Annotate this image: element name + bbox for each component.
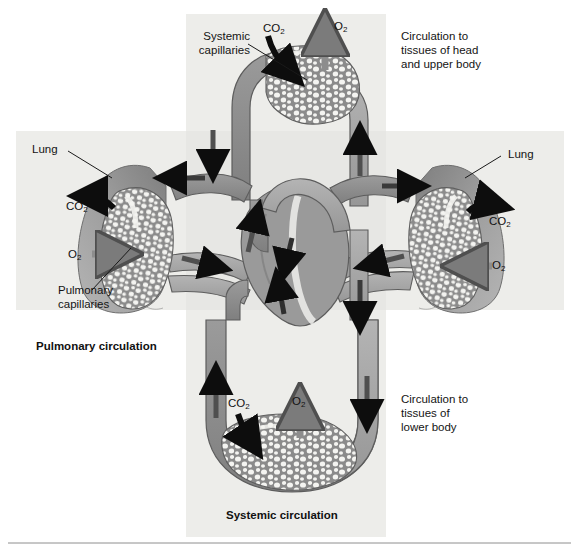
label-systemic-capillaries: Systemic capillaries [188,29,250,57]
label-pulmonary-capillaries: Pulmonary capillaries [58,283,113,311]
gas-label-co2-bottom: CO2 [228,397,250,411]
title-systemic-circulation: Systemic circulation [226,509,338,521]
gas-label-o2-bottom: O2 [292,395,305,409]
figure-canvas: Systemic capillaries Lung Lung Pulmonary… [0,0,579,551]
gas-label-o2-top: O2 [334,20,347,34]
circulation-diagram [0,0,579,551]
label-circulation-head: Circulation to tissues of head and upper… [401,29,481,71]
label-circulation-lower: Circulation to tissues of lower body [401,392,468,434]
label-lung-right: Lung [508,148,534,162]
gas-label-co2-lung-right: CO2 [489,215,511,229]
gas-label-o2-lung-left: O2 [68,248,81,262]
title-pulmonary-circulation: Pulmonary circulation [36,340,157,352]
gas-label-co2-top: CO2 [263,22,285,36]
gas-label-o2-lung-right: O2 [492,259,505,273]
label-lung-left: Lung [32,143,58,157]
gas-label-co2-lung-left: CO2 [66,200,88,214]
